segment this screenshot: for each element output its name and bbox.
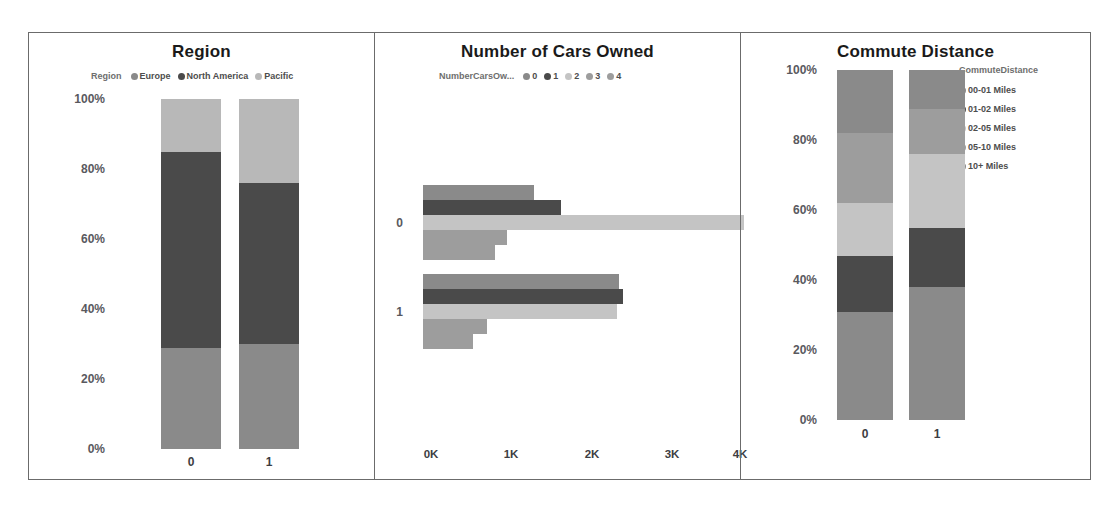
- panel-cars: Number of Cars Owned NumberCarsOw... 0 1…: [375, 33, 740, 479]
- commute-bar-1-seg-05-10: [909, 109, 965, 155]
- commute-ytick-60: 60%: [793, 203, 817, 217]
- legend-item-commute-05-10[interactable]: 05-10 Miles: [959, 142, 1016, 152]
- cars-bar-g0-s1[interactable]: [423, 200, 561, 215]
- commute-bar-0-seg-00-01: [837, 312, 893, 421]
- region-ytick-100: 100%: [74, 92, 105, 106]
- commute-ytick-100: 100%: [786, 63, 817, 77]
- cars-bar-g0-s4[interactable]: [423, 245, 495, 260]
- legend-label-commute-01-02: 01-02 Miles: [968, 104, 1016, 114]
- cars-xtick-3k: 3K: [665, 448, 680, 460]
- commute-bar-1-seg-01-02: [909, 228, 965, 288]
- commute-bar-1-seg-00-01: [909, 287, 965, 420]
- cars-bar-g0-s2[interactable]: [423, 215, 744, 230]
- region-bar-0[interactable]: [161, 99, 221, 449]
- legend-commute-title: CommuteDistance: [959, 65, 1038, 75]
- legend-commute: CommuteDistance 00-01 Miles 01-02 Miles …: [959, 65, 1040, 171]
- legend-label-pacific: Pacific: [264, 71, 293, 81]
- legend-item-commute-01-02[interactable]: 01-02 Miles: [959, 104, 1016, 114]
- legend-item-europe[interactable]: Europe: [131, 71, 171, 81]
- region-bar-1[interactable]: [239, 99, 299, 449]
- commute-ytick-20: 20%: [793, 343, 817, 357]
- cars-y-axis: 0 1: [375, 33, 415, 479]
- commute-bar-0-seg-01-02: [837, 256, 893, 312]
- cars-plot-area: [423, 33, 753, 479]
- cars-bar-g0-s3[interactable]: [423, 230, 507, 245]
- cars-xtick-1k: 1K: [504, 448, 519, 460]
- panel-commute: Commute Distance CommuteDistance 00-01 M…: [741, 33, 1090, 479]
- panel-region: Region Region Europe North America Pacif…: [29, 33, 374, 479]
- cars-bar-g1-s2[interactable]: [423, 304, 617, 319]
- region-xtick-0: 0: [188, 455, 195, 469]
- commute-ytick-80: 80%: [793, 133, 817, 147]
- region-bar-1-seg-pacific: [239, 99, 299, 183]
- cars-xtick-2k: 2K: [585, 448, 600, 460]
- commute-bar-1-seg-02-05: [909, 154, 965, 228]
- cars-bar-g0-s0[interactable]: [423, 185, 534, 200]
- region-ytick-40: 40%: [81, 302, 105, 316]
- cars-ytick-1: 1: [396, 305, 403, 319]
- commute-ytick-40: 40%: [793, 273, 817, 287]
- region-ytick-80: 80%: [81, 162, 105, 176]
- region-bar-0-seg-europe: [161, 348, 221, 450]
- commute-y-axis: 100% 80% 60% 40% 20% 0%: [741, 33, 817, 479]
- cars-bar-g1-s0[interactable]: [423, 274, 619, 289]
- commute-bar-1-seg-10plus: [909, 70, 965, 109]
- commute-bar-1[interactable]: [909, 70, 965, 420]
- legend-item-north-america[interactable]: North America: [178, 71, 249, 81]
- legend-region: Region Europe North America Pacific: [91, 71, 293, 81]
- commute-bar-0[interactable]: [837, 70, 893, 420]
- cars-bar-g1-s4[interactable]: [423, 334, 473, 349]
- commute-bar-0-seg-02-05: [837, 203, 893, 256]
- commute-xtick-0: 0: [862, 427, 869, 441]
- region-ytick-0: 0%: [88, 442, 105, 456]
- region-bar-1-seg-europe: [239, 344, 299, 449]
- legend-item-commute-00-01[interactable]: 00-01 Miles: [959, 85, 1016, 95]
- legend-label-commute-02-05: 02-05 Miles: [968, 123, 1016, 133]
- region-bar-0-seg-north-america: [161, 152, 221, 348]
- region-bar-0-seg-pacific: [161, 99, 221, 152]
- commute-ytick-0: 0%: [800, 413, 817, 427]
- commute-xtick-1: 1: [934, 427, 941, 441]
- cars-xtick-0k: 0K: [424, 448, 439, 460]
- region-bar-1-seg-north-america: [239, 183, 299, 344]
- region-ytick-20: 20%: [81, 372, 105, 386]
- region-xtick-1: 1: [266, 455, 273, 469]
- legend-label-commute-00-01: 00-01 Miles: [968, 85, 1016, 95]
- legend-item-commute-02-05[interactable]: 02-05 Miles: [959, 123, 1016, 133]
- legend-label-commute-05-10: 05-10 Miles: [968, 142, 1016, 152]
- cars-bar-g1-s1[interactable]: [423, 289, 623, 304]
- legend-swatch-pacific: [255, 73, 262, 80]
- cars-ytick-0: 0: [396, 216, 403, 230]
- dashboard-frame: Region Region Europe North America Pacif…: [28, 32, 1091, 480]
- dashboard-root: Region Region Europe North America Pacif…: [0, 0, 1119, 507]
- cars-bar-g1-s3[interactable]: [423, 319, 487, 334]
- legend-item-commute-10plus[interactable]: 10+ Miles: [959, 161, 1008, 171]
- legend-label-europe: Europe: [140, 71, 171, 81]
- region-ytick-60: 60%: [81, 232, 105, 246]
- legend-swatch-north-america: [178, 73, 185, 80]
- commute-bar-0-seg-10plus: [837, 70, 893, 133]
- legend-label-commute-10plus: 10+ Miles: [968, 161, 1008, 171]
- legend-swatch-europe: [131, 73, 138, 80]
- region-y-axis: 100% 80% 60% 40% 20% 0%: [37, 33, 105, 479]
- commute-bar-0-seg-05-10: [837, 133, 893, 203]
- legend-item-pacific[interactable]: Pacific: [255, 71, 293, 81]
- legend-label-north-america: North America: [187, 71, 249, 81]
